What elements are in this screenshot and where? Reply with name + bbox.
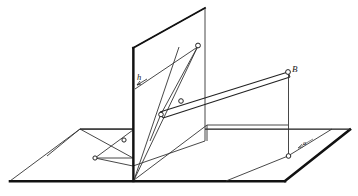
figure-root: h B a xyxy=(0,0,358,196)
point-left-lower xyxy=(93,156,97,160)
point-apex-on-plane xyxy=(196,43,201,48)
vertical-picture-plane xyxy=(133,8,205,166)
point-b-foot xyxy=(286,154,291,159)
projection-diagram: h B a xyxy=(0,0,358,196)
label-a: a xyxy=(303,139,306,146)
point-beam-upper-mid xyxy=(179,99,184,104)
point-left-upper xyxy=(122,138,126,142)
label-b: B xyxy=(292,64,298,74)
label-h: h xyxy=(137,72,141,82)
point-beam-lower-left xyxy=(159,112,164,117)
point-b xyxy=(286,70,291,75)
